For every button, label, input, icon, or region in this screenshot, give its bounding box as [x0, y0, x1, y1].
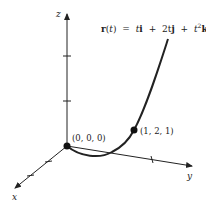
x-axis-tick [45, 161, 52, 162]
origin-point [64, 143, 71, 150]
x-axis [15, 146, 67, 188]
curve-formula: r(t) = ti + 2tj + t2k [101, 22, 206, 34]
space-curve-diagram: z y x (0, 0, 0) (1, 2, 1) r(t) = ti + 2t… [0, 0, 206, 211]
x-axis-tick [27, 175, 34, 176]
y-axis-label: y [186, 171, 193, 181]
point-1-2-1 [131, 127, 138, 134]
z-axis [63, 14, 71, 146]
origin-label: (0, 0, 0) [72, 133, 106, 143]
point-label-1-2-1: (1, 2, 1) [140, 126, 174, 136]
z-axis-label: z [55, 9, 61, 19]
x-axis-label: x [12, 192, 17, 202]
